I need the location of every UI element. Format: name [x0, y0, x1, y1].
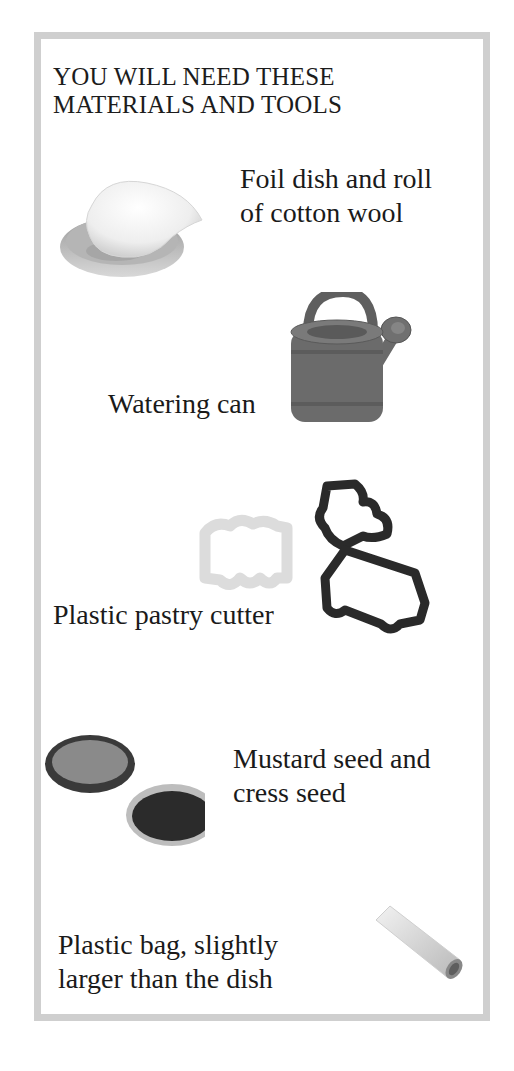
heading-line-1: YOU WILL NEED THESE: [53, 63, 335, 90]
item-label-foil-dish: Foil dish and roll of cotton wool: [240, 162, 432, 230]
item-label-watering-can: Watering can: [108, 387, 256, 421]
seed-dishes-icon: [45, 728, 205, 853]
heading-line-2: MATERIALS AND TOOLS: [53, 91, 342, 118]
item-label-pastry-cutter: Plastic pastry cutter: [53, 598, 274, 632]
watering-can-icon: [283, 292, 418, 432]
plastic-bag-roll-icon: [370, 898, 465, 988]
foil-dish-cotton-wool-icon: [52, 165, 212, 285]
item-label-plastic-bag: Plastic bag, slightly larger than the di…: [58, 928, 278, 996]
materials-heading: YOU WILL NEED THESE MATERIALS AND TOOLS: [53, 63, 342, 119]
item-label-seeds: Mustard seed and cress seed: [233, 742, 431, 810]
